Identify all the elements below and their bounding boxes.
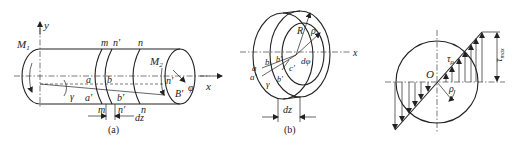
torsion-diagram: y x M1 M2 γ m n' n a b a' b' [0, 0, 520, 147]
label-tau-rho: τρ [447, 53, 455, 66]
label-a-prime-b: a' [250, 72, 258, 82]
label-b-prime-b: b' [276, 55, 282, 64]
gamma-label-a: γ [70, 91, 75, 102]
panel-c-stress: τmax ρ O τρ [385, 30, 505, 132]
label-b-prime2-b: b' [277, 75, 283, 84]
stress-distribution-line [395, 32, 482, 130]
section-n [133, 49, 140, 104]
label-c-prime: c' [289, 63, 296, 73]
caption-a: (a) [108, 124, 119, 136]
label-tau-max: τmax [493, 48, 505, 62]
x-axis-label: x [205, 80, 211, 92]
caption-b: (b) [284, 124, 296, 136]
label-m-bottom: m [98, 104, 105, 115]
label-R: R [296, 25, 303, 36]
y-axis-label: y [43, 19, 49, 31]
label-b-b: b [265, 57, 270, 67]
label-a: a [86, 74, 91, 85]
label-rho-b: ρ [310, 25, 316, 36]
panel-a-shaft: y x M1 M2 γ m n' n a b a' b' [14, 19, 222, 136]
label-b-prime-end: B' [175, 88, 184, 99]
label-O: O [426, 68, 434, 80]
shaft-left-end [22, 49, 40, 104]
label-n-prime-end: n' [166, 75, 174, 86]
label-n-prime-top: n' [113, 37, 121, 48]
label-gamma-b: γ [266, 79, 270, 89]
label-n-prime-bottom: n' [118, 104, 126, 115]
label-dz-b: dz [283, 104, 292, 115]
label-m-top: m [101, 37, 108, 48]
label-a-prime: a' [85, 92, 93, 103]
x-axis-label-b: x [352, 47, 358, 58]
label-b: b [107, 74, 112, 85]
label-b-prime: b' [117, 92, 125, 103]
label-rho-c: ρ [448, 83, 454, 94]
panel-b-ring: x R ρ a a' b b' b' c' γ dφ dz (b) [240, 11, 358, 136]
stress-arrows-down [395, 82, 428, 129]
moment-m2-arrow [161, 68, 164, 95]
moment-m1-label: M1 [16, 38, 30, 52]
label-n-top: n [138, 37, 143, 48]
label-phi: φ [188, 82, 194, 93]
label-dphi: dφ [301, 56, 311, 66]
moment-m1-arrow [30, 63, 32, 92]
label-dz-a: dz [135, 112, 144, 123]
moment-m2-label: M2 [149, 55, 163, 69]
section-m [95, 49, 102, 104]
